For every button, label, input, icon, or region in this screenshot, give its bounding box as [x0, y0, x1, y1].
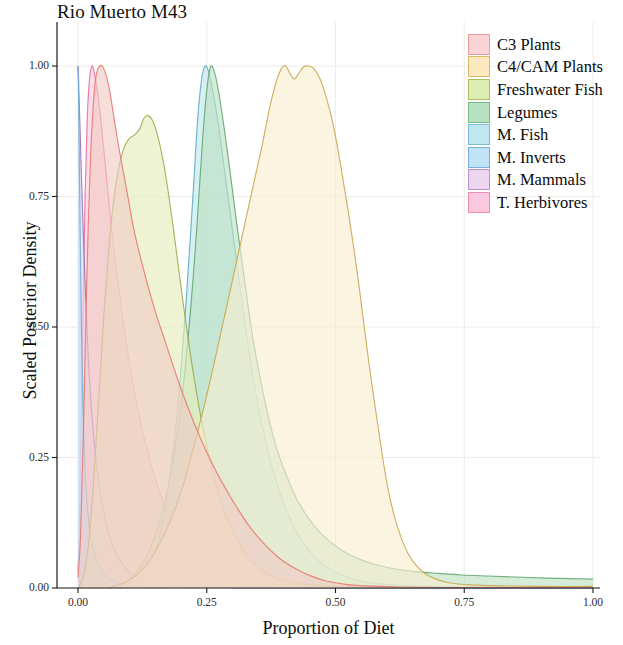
legend-item[interactable]: Freshwater Fish: [468, 78, 603, 101]
x-axis-label: Proportion of Diet: [57, 618, 600, 639]
x-tick-label: 0.00: [53, 596, 103, 608]
y-axis-label: Scaled Posterior Density: [20, 181, 41, 441]
legend-item[interactable]: T. Herbivores: [468, 191, 603, 214]
legend-color-swatch: [468, 124, 490, 145]
chart-legend: C3 PlantsC4/CAM PlantsFreshwater FishLeg…: [468, 33, 603, 214]
y-tick-label: 0.75: [9, 190, 49, 202]
x-tick-label: 1.00: [568, 596, 618, 608]
legend-item[interactable]: C4/CAM Plants: [468, 56, 603, 79]
legend-color-swatch: [468, 56, 490, 77]
x-tick-label: 0.75: [439, 596, 489, 608]
x-tick-label: 0.50: [311, 596, 361, 608]
chart-title: Rio Muerto M43: [57, 1, 187, 23]
y-tick-label: 0.00: [9, 581, 49, 593]
chart-figure: Rio Muerto M43 Scaled Posterior Density …: [0, 0, 623, 645]
legend-label: T. Herbivores: [497, 194, 587, 211]
legend-label: Legumes: [497, 104, 557, 121]
legend-label: M. Fish: [497, 126, 548, 143]
legend-item[interactable]: M. Inverts: [468, 146, 603, 169]
legend-color-swatch: [468, 102, 490, 123]
x-tick-label: 0.25: [182, 596, 232, 608]
legend-label: C4/CAM Plants: [497, 58, 603, 75]
legend-label: M. Inverts: [497, 149, 566, 166]
legend-color-swatch: [468, 34, 490, 55]
legend-color-swatch: [468, 79, 490, 100]
y-tick-label: 0.25: [9, 451, 49, 463]
legend-item[interactable]: Legumes: [468, 101, 603, 124]
legend-color-swatch: [468, 169, 490, 190]
legend-label: M. Mammals: [497, 171, 586, 188]
legend-item[interactable]: M. Mammals: [468, 169, 603, 192]
y-tick-label: 0.50: [9, 320, 49, 332]
y-tick-label: 1.00: [9, 59, 49, 71]
legend-color-swatch: [468, 147, 490, 168]
legend-item[interactable]: M. Fish: [468, 123, 603, 146]
legend-color-swatch: [468, 192, 490, 213]
legend-label: Freshwater Fish: [497, 81, 603, 98]
legend-label: C3 Plants: [497, 36, 561, 53]
legend-item[interactable]: C3 Plants: [468, 33, 603, 56]
